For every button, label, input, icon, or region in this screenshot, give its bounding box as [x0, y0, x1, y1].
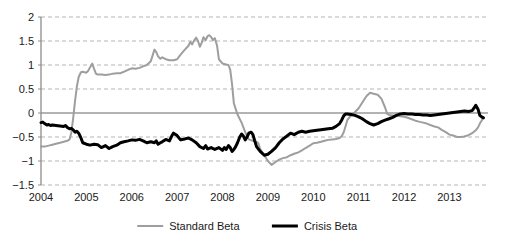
y-tick-label: 2 — [28, 11, 34, 23]
y-tick-label: 1.5 — [19, 35, 34, 47]
x-tick-label: 2006 — [120, 191, 144, 203]
y-tick-label: −1 — [21, 155, 34, 167]
legend-label-standard-beta: Standard Beta — [169, 220, 240, 232]
y-tick-label: −0.5 — [12, 131, 34, 143]
x-tick-label: 2008 — [210, 191, 234, 203]
y-tick-label: 0.5 — [19, 83, 34, 95]
x-tick-label: 2012 — [392, 191, 416, 203]
y-tick-label: 0 — [28, 107, 34, 119]
x-tick-label: 2009 — [256, 191, 280, 203]
x-tick-label: 2005 — [74, 191, 98, 203]
y-tick-label: 1 — [28, 59, 34, 71]
chart-background — [0, 0, 506, 242]
x-tick-label: 2004 — [29, 191, 53, 203]
x-tick-label: 2011 — [347, 191, 371, 203]
beta-time-series-chart: −1.5−1−0.500.511.52 20042005200620072008… — [0, 0, 506, 242]
legend-label-crisis-beta: Crisis Beta — [304, 220, 358, 232]
x-tick-label: 2010 — [301, 191, 325, 203]
x-tick-label: 2013 — [437, 191, 461, 203]
x-tick-label: 2007 — [165, 191, 189, 203]
chart-svg: −1.5−1−0.500.511.52 20042005200620072008… — [0, 0, 506, 242]
y-tick-label: −1.5 — [12, 179, 34, 191]
